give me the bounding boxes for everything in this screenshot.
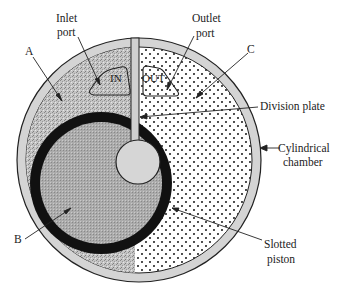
inlet-port-in-label: IN — [110, 72, 122, 84]
inlet-port-label-line2: port — [57, 26, 76, 39]
slotted-piston-label-line1: Slotted — [264, 238, 297, 250]
inlet-port-label-line1: Inlet — [56, 12, 78, 24]
region-b-label: B — [14, 233, 22, 245]
outlet-port-out-label: OUT — [142, 72, 165, 84]
outlet-port-label-line1: Outlet — [192, 12, 222, 24]
slotted-piston-label-line2: piston — [267, 253, 295, 266]
outlet-port-label-line2: port — [196, 27, 215, 40]
division-plate-label: Division plate — [260, 100, 325, 113]
division-plate — [131, 38, 139, 146]
region-c-label: C — [247, 43, 255, 55]
hub — [116, 140, 160, 184]
pump-diagram: IN OUT Inlet port Outlet port A C Divisi… — [0, 0, 341, 292]
cylindrical-chamber-label-line1: Cylindrical — [278, 142, 330, 155]
region-a-label: A — [25, 45, 34, 57]
cylindrical-chamber-label-line2: chamber — [283, 156, 323, 168]
